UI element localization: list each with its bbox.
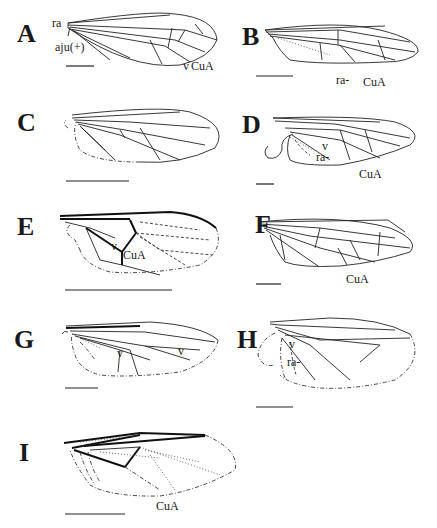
wing-a [68,13,217,65]
wing-h [258,318,415,388]
label-aju-a: aju(+) [55,40,84,54]
label-cua-b: CuA [363,75,386,89]
label-v-a: v [183,59,189,73]
wing-i [64,433,236,496]
label-cua-a: CuA [191,59,214,73]
wing-figure: ra aju(+) v CuA ra- CuA [0,0,437,528]
label-ra-a: ra [52,16,62,30]
wing-f [258,219,413,266]
wing-d [265,117,415,165]
label-v-e: v [111,239,117,253]
label-cua-d: CuA [359,167,382,181]
wing-b [265,25,418,63]
label-v-g1: v [117,346,123,360]
label-cua-e: CuA [123,248,146,262]
label-v-g2: v [178,344,184,358]
label-cua-f: CuA [346,272,369,286]
wing-e [60,212,218,275]
label-v-h: v [289,337,295,351]
wing-c [64,109,219,162]
label-ra-h: ra- [287,355,300,369]
label-cua-i: CuA [156,499,179,513]
wing-g [62,322,218,376]
label-ra-d: ra- [316,150,329,164]
label-ra-b: ra- [336,73,349,87]
